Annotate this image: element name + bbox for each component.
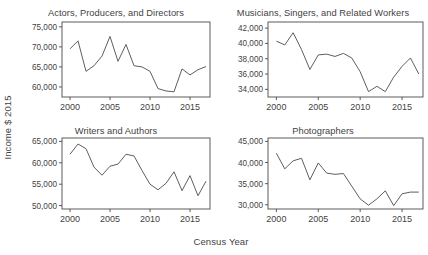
data-series-line: [70, 144, 206, 196]
y-tick-label: 55,000: [32, 180, 57, 189]
y-tick-label: 36,000: [238, 70, 263, 79]
x-tick-label: 2005: [308, 102, 328, 112]
plot-frame: [62, 138, 210, 209]
y-tick-label: 65,000: [32, 63, 57, 72]
x-tick-label: 2010: [140, 102, 160, 112]
x-tick-label: 2010: [350, 214, 370, 224]
y-tick-label: 45,000: [238, 137, 263, 146]
x-tick-label: 2010: [350, 102, 370, 112]
y-tick-label: 40,000: [238, 39, 263, 48]
x-tick-label: 2000: [60, 102, 80, 112]
figure-multipanel-line-charts: Income $ 2015 Census Year Actors, Produc…: [0, 0, 428, 255]
x-tick-label: 2005: [308, 214, 328, 224]
y-tick-label: 60,000: [32, 159, 57, 168]
panel-writers-authors: Writers and Authors 50,00055,00060,00065…: [18, 126, 214, 236]
plot-area: 30,00035,00040,00045,0002000200520102015: [218, 126, 428, 236]
plot-area: 50,00055,00060,00065,0002000200520102015: [18, 126, 214, 236]
y-tick-label: 38,000: [238, 55, 263, 64]
x-tick-label: 2000: [266, 102, 286, 112]
x-tick-label: 2005: [100, 102, 120, 112]
plot-area: 60,00065,00070,00075,0002000200520102015: [18, 8, 214, 126]
x-tick-label: 2010: [140, 214, 160, 224]
y-tick-label: 42,000: [238, 24, 263, 33]
x-tick-label: 2015: [180, 214, 200, 224]
data-series-line: [70, 36, 206, 91]
y-tick-label: 60,000: [32, 83, 57, 92]
y-tick-label: 50,000: [32, 202, 57, 211]
x-tick-label: 2005: [100, 214, 120, 224]
data-series-line: [276, 33, 418, 92]
x-tick-label: 2015: [392, 102, 412, 112]
plot-frame: [268, 22, 423, 97]
x-tick-label: 2000: [266, 214, 286, 224]
y-tick-label: 40,000: [238, 159, 263, 168]
y-tick-label: 34,000: [238, 85, 263, 94]
x-tick-label: 2000: [60, 214, 80, 224]
x-tick-label: 2015: [180, 102, 200, 112]
y-tick-label: 35,000: [238, 180, 263, 189]
y-axis-label: Income $ 2015: [0, 0, 14, 255]
panel-actors-producers-directors: Actors, Producers, and Directors 60,0006…: [18, 8, 214, 126]
panel-musicians-singers: Musicians, Singers, and Related Workers …: [218, 8, 428, 126]
x-axis-label: Census Year: [14, 236, 428, 247]
y-tick-label: 65,000: [32, 137, 57, 146]
plot-frame: [62, 22, 210, 97]
y-tick-label: 70,000: [32, 43, 57, 52]
panel-photographers: Photographers 30,00035,00040,00045,00020…: [218, 126, 428, 236]
data-series-line: [276, 153, 418, 205]
y-tick-label: 75,000: [32, 23, 57, 32]
plot-area: 34,00036,00038,00040,00042,0002000200520…: [218, 8, 428, 126]
plot-frame: [268, 138, 423, 209]
y-tick-label: 30,000: [238, 201, 263, 210]
x-tick-label: 2015: [392, 214, 412, 224]
